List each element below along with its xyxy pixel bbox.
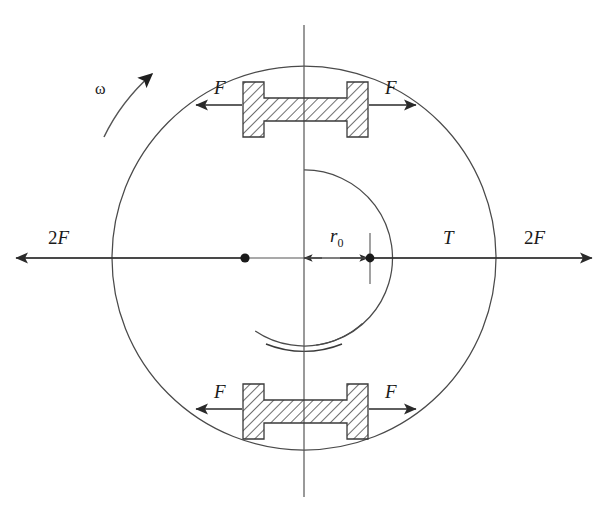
force-label-top-right: F [385,78,397,97]
radius-dimension-dot [366,254,375,263]
force-label-top-left: F [214,78,226,97]
torque-label: T [443,228,454,247]
force-label-bottom-right: F [385,382,397,401]
omega-arc-arrow [104,74,152,137]
reaction-right-symbol: F [534,227,546,248]
weight-top [243,82,368,137]
force-label-bottom-left: F [214,382,226,401]
omega-label: ω [95,81,106,97]
radius-subscript: 0 [337,236,343,250]
diagram-canvas [0,0,608,518]
reaction-left-symbol: F [58,227,70,248]
reaction-right-coefficient: 2 [524,227,534,248]
pivot-dot-left [240,253,249,262]
weight-top-body [243,82,368,137]
technical-diagram: ω F F F F 2F 2F T r0 [0,0,608,518]
radius-label: r0 [330,226,343,249]
inner-circle-right-end [314,323,364,345]
reaction-label-left: 2F [48,228,69,247]
reaction-left-coefficient: 2 [48,227,58,248]
reaction-label-right: 2F [524,228,545,247]
weight-bottom-body [243,384,368,439]
weight-bottom [243,384,368,439]
